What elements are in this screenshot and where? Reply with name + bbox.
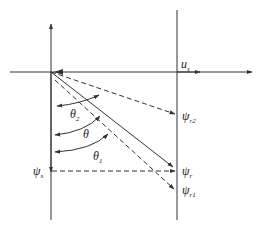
label-psi-r1: ψr1 — [182, 184, 196, 199]
phasor-diagram — [0, 0, 263, 233]
label-theta2: θ2 — [70, 108, 79, 123]
label-theta1: θ1 — [93, 150, 102, 165]
origin-arrow-head — [54, 69, 63, 75]
label-psi-r: ψr — [182, 165, 192, 180]
psi-r1-vector — [55, 80, 174, 189]
label-psi-r2: ψr2 — [182, 110, 196, 125]
label-us: us — [181, 58, 190, 73]
label-psi-s: ψs — [33, 165, 43, 180]
label-theta: θ — [83, 128, 89, 143]
